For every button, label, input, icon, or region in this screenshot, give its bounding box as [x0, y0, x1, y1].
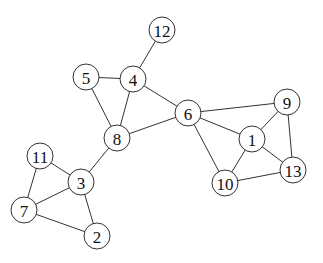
node-label: 9	[283, 94, 292, 113]
node-label: 1	[248, 131, 257, 150]
node-label: 13	[285, 162, 302, 181]
node-4: 4	[120, 66, 146, 92]
node-2: 2	[84, 223, 110, 249]
node-label: 6	[184, 105, 193, 124]
node-10: 10	[212, 170, 238, 196]
node-1: 1	[239, 126, 265, 152]
node-label: 5	[82, 69, 91, 88]
node-label: 12	[154, 22, 171, 41]
graph-diagram: 12345678910111213	[0, 0, 323, 263]
graph-svg: 12345678910111213	[0, 0, 323, 263]
node-label: 10	[217, 175, 234, 194]
node-8: 8	[104, 125, 130, 151]
node-label: 11	[32, 148, 48, 167]
node-label: 7	[20, 202, 29, 221]
node-label: 4	[129, 71, 138, 90]
node-label: 2	[93, 228, 102, 247]
nodes-layer: 12345678910111213	[11, 17, 306, 249]
node-5: 5	[73, 64, 99, 90]
node-7: 7	[11, 197, 37, 223]
node-9: 9	[274, 89, 300, 115]
edge-6-9	[188, 102, 287, 113]
node-6: 6	[175, 100, 201, 126]
node-3: 3	[68, 169, 94, 195]
node-11: 11	[27, 143, 53, 169]
node-label: 3	[77, 174, 86, 193]
node-12: 12	[149, 17, 175, 43]
node-label: 8	[113, 130, 122, 149]
node-13: 13	[280, 157, 306, 183]
